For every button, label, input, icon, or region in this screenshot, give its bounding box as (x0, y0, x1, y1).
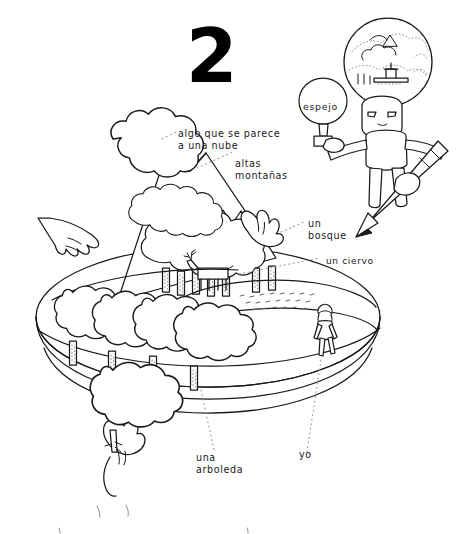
hand-icon (38, 218, 99, 256)
bottom-marks (59, 505, 248, 533)
illustration-page: .ln{fill:none;stroke:#1a1a1a;stroke-widt… (0, 0, 474, 534)
label-mountains: altas montañas (235, 158, 288, 183)
label-cloud: algo que se parece a una nube (178, 128, 280, 153)
label-self: yo (299, 449, 312, 461)
label-deer: un ciervo (326, 256, 374, 268)
page-number: 2 (186, 19, 237, 93)
artist-figure (299, 18, 448, 237)
label-forest: un bosque (308, 218, 347, 243)
label-mirror: espejo (303, 101, 338, 112)
mirror-icon (299, 78, 347, 146)
label-grove: una arboleda (196, 452, 243, 477)
thought-bubble-head-icon (344, 18, 432, 106)
